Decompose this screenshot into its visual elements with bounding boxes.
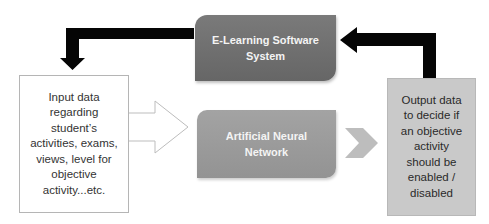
output-data-text: Output data to decide if an objective ac… [401, 93, 462, 202]
input-data-text: Input data regarding student’s activitie… [30, 90, 118, 199]
elearning-line: E-Learning Software [212, 32, 319, 48]
elearning-line: System [212, 48, 319, 64]
output-data-box: Output data to decide if an objective ac… [387, 78, 476, 216]
output-line: activity [401, 139, 462, 155]
input-line: activity...etc. [30, 183, 118, 199]
elearning-system-box: E-Learning Software System [195, 15, 336, 81]
input-line: student’s [30, 121, 118, 137]
output-line: to decide if [401, 108, 462, 124]
output-line: an objective [401, 124, 462, 140]
output-line: enabled / [401, 170, 462, 186]
ann-text: Artificial Neural Network [226, 128, 307, 160]
input-line: objective [30, 167, 118, 183]
input-line: activities, exams, [30, 136, 118, 152]
ann-line: Network [226, 144, 307, 160]
output-line: should be [401, 155, 462, 171]
ann-box: Artificial Neural Network [197, 110, 336, 178]
arrow-output-to-elearning [340, 27, 436, 78]
input-line: Input data [30, 90, 118, 106]
ann-line: Artificial Neural [226, 128, 307, 144]
output-line: Output data [401, 93, 462, 109]
chevron-ann-to-output [345, 128, 378, 158]
input-line: regarding [30, 105, 118, 121]
input-line: views, level for [30, 152, 118, 168]
input-data-box: Input data regarding student’s activitie… [19, 75, 129, 213]
elearning-system-text: E-Learning Software System [212, 32, 319, 64]
output-line: disabled [401, 186, 462, 202]
arrow-elearning-to-input [60, 28, 194, 70]
arrow-input-to-ann [129, 101, 188, 153]
